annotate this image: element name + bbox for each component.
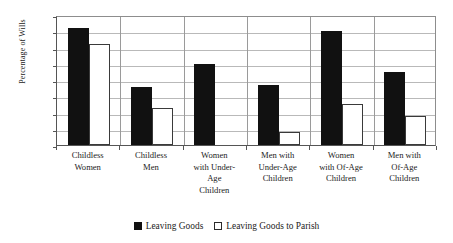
legend-label: Leaving Goods: [146, 221, 204, 231]
legend-label: Leaving Goods to Parish: [226, 221, 319, 231]
bar: [405, 116, 426, 145]
bar: [384, 72, 405, 145]
x-axis-label-line: with Of-Age: [319, 162, 363, 172]
x-axis-label: Womenwith Of-AgeChildren: [309, 150, 372, 185]
bar-group: [120, 17, 183, 145]
x-axis-label: ChildlessWomen: [56, 150, 119, 173]
x-axis-label-line: Women: [74, 162, 101, 172]
bar-chart: Percentage of Wills 80706050403020100 Ch…: [0, 0, 453, 243]
bar-group: [57, 17, 120, 145]
chart-legend: Leaving GoodsLeaving Goods to Parish: [0, 221, 453, 231]
bar-group: [310, 17, 373, 145]
bar: [68, 28, 89, 145]
x-axis-label-line: Men: [143, 162, 159, 172]
legend-item[interactable]: Leaving Goods to Parish: [214, 221, 319, 231]
x-axis-label: ChildlessMen: [119, 150, 182, 173]
x-axis-label-line: Women: [201, 150, 228, 160]
bar-group: [184, 17, 247, 145]
bar: [194, 64, 215, 145]
plot-area: 80706050403020100: [56, 16, 436, 146]
x-axis-label-line: Age: [207, 173, 221, 183]
x-axis-label-line: Under-Age: [258, 162, 296, 172]
x-axis-label-line: Children: [199, 185, 229, 195]
x-axis-label-line: Women: [328, 150, 355, 160]
x-axis-label-line: Of-Age: [391, 162, 417, 172]
x-axis-label: Men withUnder-AgeChildren: [246, 150, 309, 185]
x-axis-label-line: with Under-: [194, 162, 236, 172]
bar: [258, 85, 279, 145]
x-axis-label: Men withOf-AgeChildren: [373, 150, 436, 185]
bar: [152, 108, 173, 145]
bar: [279, 132, 300, 145]
x-axis-label-line: Children: [389, 173, 419, 183]
outlined-square-icon: [214, 222, 222, 230]
x-axis-label: Womenwith Under-AgeChildren: [183, 150, 246, 196]
x-axis-label-line: Men with: [388, 150, 421, 160]
x-axis-label-line: Men with: [261, 150, 294, 160]
bar: [131, 87, 152, 146]
x-axis-label-line: Childless: [72, 150, 104, 160]
bar-group: [374, 17, 437, 145]
bar-group: [247, 17, 310, 145]
filled-square-icon: [134, 222, 142, 230]
bar: [342, 104, 363, 145]
y-axis-title: Percentage of Wills: [18, 0, 27, 107]
x-axis-label-line: Children: [263, 173, 293, 183]
bar: [89, 44, 110, 145]
x-axis-tick: [436, 146, 437, 150]
bar: [321, 31, 342, 145]
legend-item[interactable]: Leaving Goods: [134, 221, 204, 231]
x-axis-labels: ChildlessWomenChildlessMenWomenwith Unde…: [56, 150, 436, 210]
x-axis-label-line: Children: [326, 173, 356, 183]
x-axis-label-line: Childless: [135, 150, 167, 160]
